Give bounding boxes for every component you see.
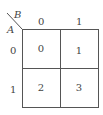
- column-header-1: 1: [76, 17, 82, 27]
- column-header-0: 0: [38, 17, 44, 27]
- row-header-1: 1: [10, 85, 16, 95]
- kmap-cell-2: 2: [22, 68, 60, 107]
- row-variable-label: A: [7, 25, 14, 35]
- column-variable-label: B: [14, 10, 21, 20]
- row-header-0: 0: [10, 46, 16, 56]
- kmap-cell-0: 0: [22, 29, 60, 68]
- kmap-cell-1: 1: [60, 31, 98, 70]
- kmap-cell-3: 3: [60, 68, 98, 107]
